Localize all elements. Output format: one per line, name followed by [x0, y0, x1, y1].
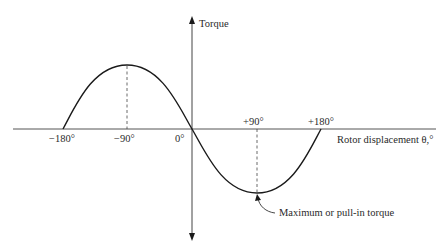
x-axis-label: Rotor displacement θ,°	[337, 134, 433, 145]
y-axis-down-arrow-icon	[189, 233, 195, 241]
y-axis-up-arrow-icon	[189, 16, 195, 24]
tick-label-pos180: +180°	[308, 116, 334, 127]
annotation-leader-line	[258, 198, 275, 213]
tick-label-zero: 0°	[175, 133, 184, 144]
annotation-arrow-icon	[255, 194, 261, 201]
annotation-text: Maximum or pull-in torque	[279, 207, 395, 218]
y-axis-label: Torque	[199, 18, 229, 29]
tick-label-neg180: −180°	[49, 133, 75, 144]
tick-label-pos90: +90°	[243, 116, 264, 127]
torque-displacement-diagram: Torque −180° −90° 0° +90° +180° Rotor di…	[0, 0, 447, 252]
tick-label-neg90: −90°	[114, 133, 135, 144]
